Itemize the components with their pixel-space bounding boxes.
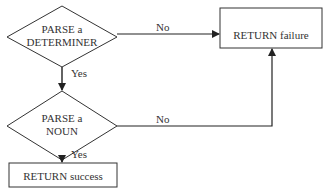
node-label-parse-determiner-line2: DETERMINER [12,36,112,48]
node-label-parse-determiner-line1: PARSE a [22,23,102,35]
edge-label-det-no: No [156,21,169,33]
edge-label-noun-no: No [156,113,169,125]
node-label-return-failure: RETURN failure [220,29,322,41]
node-label-parse-noun-line1: PARSE a [22,112,102,124]
box-return-failure [220,8,322,48]
edge-label-noun-yes: Yes [71,148,87,160]
edge-label-det-yes: Yes [71,67,87,79]
node-label-parse-noun-line2: NOUN [22,125,102,137]
edge-noun-no [117,49,272,126]
node-label-return-success: RETURN success [9,170,117,182]
